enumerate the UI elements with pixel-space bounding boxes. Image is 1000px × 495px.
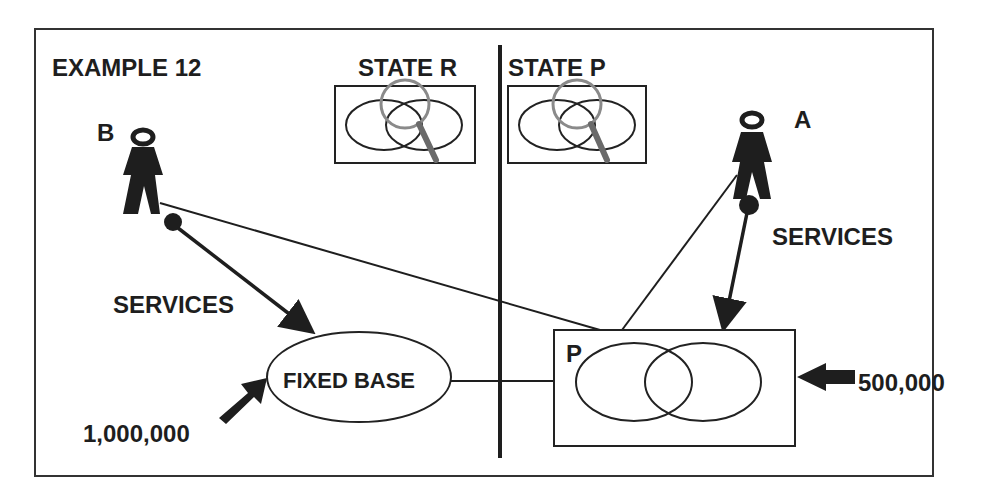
person-b-label: B: [97, 121, 114, 145]
person-a-label: A: [794, 108, 811, 132]
state-p-label: STATE P: [508, 56, 606, 80]
services-arrow-a: [724, 213, 747, 326]
input-arrow-p-box: [797, 363, 855, 391]
p-box-node: [554, 330, 795, 446]
fixed-base-input-amount: 1,000,000: [83, 422, 190, 446]
state-p-venn-inset: [508, 80, 646, 163]
state-r-label: STATE R: [358, 56, 457, 80]
outer-frame: [35, 29, 933, 476]
link-a-to-p-box: [622, 175, 737, 330]
state-r-venn-inset: [335, 80, 475, 163]
person-b-icon: [123, 130, 182, 231]
services-label-b: SERVICES: [113, 293, 234, 317]
p-box-label: P: [566, 342, 582, 366]
fixed-base-label: FIXED BASE: [283, 370, 415, 392]
input-arrow-fixed-base: [219, 378, 267, 424]
person-a-icon: [732, 113, 772, 215]
p-box-input-amount: 500,000: [858, 371, 945, 395]
services-label-a: SERVICES: [772, 225, 893, 249]
diagram-title: EXAMPLE 12: [52, 56, 201, 80]
